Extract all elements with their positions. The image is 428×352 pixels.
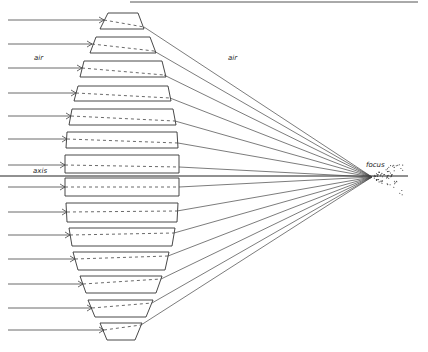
scatter-dot xyxy=(387,176,388,177)
scatter-dot xyxy=(374,175,375,176)
scatter-dot xyxy=(387,184,388,185)
scatter-dot xyxy=(388,171,389,172)
internal-ray xyxy=(67,139,178,143)
prism xyxy=(8,203,178,222)
internal-ray xyxy=(75,256,168,259)
scatter-dot xyxy=(379,181,380,182)
prism xyxy=(8,228,175,246)
prism xyxy=(8,300,153,317)
scatter-dot xyxy=(402,165,403,166)
scatter-dot xyxy=(375,176,376,177)
prism xyxy=(8,276,162,293)
scatter-dot xyxy=(374,178,375,179)
scatter-dot xyxy=(381,183,382,184)
scatter-dot xyxy=(378,174,379,175)
scatter-dot xyxy=(377,176,378,177)
internal-ray xyxy=(65,165,179,167)
scatter-dot xyxy=(381,173,382,174)
scatter-dot xyxy=(376,173,377,174)
prism xyxy=(8,13,144,29)
internal-ray xyxy=(71,116,175,121)
scatter-dot xyxy=(393,165,394,166)
scatter-dot xyxy=(390,172,391,173)
converging-ray xyxy=(170,98,372,177)
focus-label: focus xyxy=(366,161,385,169)
converging-ray xyxy=(168,177,372,256)
prism xyxy=(8,37,156,53)
converging-ray xyxy=(141,177,372,325)
scatter-dot xyxy=(402,194,403,195)
scatter-dot xyxy=(376,180,377,181)
prism-outline xyxy=(73,252,169,270)
air-label-right: air xyxy=(228,54,238,62)
scatter-dot xyxy=(394,181,395,182)
scatter-dot xyxy=(386,177,387,178)
scatter-dot xyxy=(394,183,395,184)
scatter-dot xyxy=(400,168,401,169)
scatter-dot xyxy=(391,176,392,177)
prism-outline xyxy=(100,13,144,29)
prism xyxy=(8,86,171,101)
scatter-dot xyxy=(394,170,395,171)
scatter-dot xyxy=(386,169,387,170)
scatter-dot xyxy=(382,180,383,181)
prism xyxy=(8,323,142,340)
scatter-dot xyxy=(399,193,400,194)
prism xyxy=(8,252,169,270)
scatter-dot xyxy=(388,167,389,168)
scatter-dot xyxy=(380,174,381,175)
scatter-dot xyxy=(383,174,384,175)
axis-label: axis xyxy=(33,167,47,175)
scatter-dot xyxy=(387,168,388,169)
scatter-dot xyxy=(394,167,395,168)
prism-lens-diagram: air air axis focus xyxy=(0,0,428,352)
converging-ray xyxy=(144,27,372,177)
internal-ray xyxy=(83,279,161,284)
scatter-dot xyxy=(396,165,397,166)
internal-ray xyxy=(67,211,177,212)
scatter-dot xyxy=(396,181,397,182)
scatter-dot xyxy=(393,187,394,188)
scatter-dot xyxy=(380,181,381,182)
scatter-dot xyxy=(395,182,396,183)
scatter-dot xyxy=(388,178,389,179)
internal-ray xyxy=(104,20,144,27)
converging-ray xyxy=(164,75,372,177)
scatter-dot xyxy=(402,170,403,171)
internal-ray xyxy=(104,325,141,330)
prism xyxy=(8,61,166,77)
scatter-dot xyxy=(390,165,391,166)
scatter-dot xyxy=(377,179,378,180)
prism-outline xyxy=(66,203,178,222)
scatter-dot xyxy=(374,176,375,177)
scatter-dot xyxy=(399,164,400,165)
scatter-dot xyxy=(392,174,393,175)
prism-outline xyxy=(88,300,153,317)
prism-outline xyxy=(80,276,162,293)
prism xyxy=(8,132,178,148)
internal-ray xyxy=(82,68,164,75)
scatter-dot xyxy=(390,184,391,185)
scatter-dot xyxy=(380,175,381,176)
internal-ray xyxy=(92,303,152,308)
scatter-dot xyxy=(397,165,398,166)
prism-outline xyxy=(69,228,175,246)
air-label-left: air xyxy=(34,54,44,62)
prism-outline xyxy=(80,61,166,77)
scatter-dot xyxy=(401,190,402,191)
prism-outline xyxy=(65,155,179,173)
scatter-dot xyxy=(378,171,379,172)
scatter-dot xyxy=(382,176,383,177)
prism xyxy=(8,109,176,125)
internal-ray xyxy=(70,233,174,235)
scatter-dot xyxy=(392,166,393,167)
scatter-dot xyxy=(388,175,389,176)
prism-outline xyxy=(66,132,178,148)
internal-ray xyxy=(76,93,170,98)
internal-ray xyxy=(92,44,154,51)
prism xyxy=(8,178,179,196)
